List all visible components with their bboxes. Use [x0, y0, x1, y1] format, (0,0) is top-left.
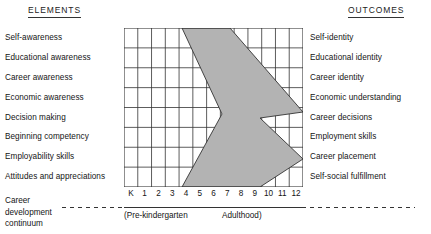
- x-axis-tick: 3: [170, 189, 175, 198]
- element-label: Decision making: [5, 108, 120, 128]
- x-axis-tick: 8: [239, 189, 244, 198]
- element-label: Beginning competency: [5, 127, 120, 147]
- outcome-label: Educational identity: [310, 48, 431, 68]
- x-axis-tick: 7: [225, 189, 230, 198]
- diagram-grid: [124, 28, 303, 187]
- outcome-label: Career placement: [310, 147, 431, 167]
- outcomes-column-header: OUTCOMES: [348, 5, 404, 18]
- x-axis-tick: 1: [142, 189, 147, 198]
- x-axis-tick: 6: [211, 189, 216, 198]
- x-axis-tick: 11: [278, 189, 287, 198]
- elements-column-header: ELEMENTS: [28, 5, 81, 18]
- element-label: Educational awareness: [5, 48, 120, 68]
- outcome-label: Career decisions: [310, 108, 431, 128]
- x-axis-tick: 5: [197, 189, 202, 198]
- x-axis-tick: K: [128, 189, 133, 198]
- outcomes-label-list: Self-identity Educational identity Caree…: [310, 28, 431, 187]
- element-label: Attitudes and appreciations: [5, 167, 120, 187]
- x-axis-tick: 4: [184, 189, 189, 198]
- continuum-caption-line2: development: [5, 207, 52, 219]
- x-axis-tick: 12: [292, 189, 301, 198]
- outcome-label: Self-social fulfillment: [310, 167, 431, 187]
- element-label: Economic awareness: [5, 88, 120, 108]
- x-axis-tick-labels: K123456789101112: [124, 189, 303, 202]
- continuum-caption-line3: continuum: [5, 218, 52, 230]
- career-development-diagram: ELEMENTS OUTCOMES Self-awareness Educati…: [0, 0, 431, 234]
- element-label: Career awareness: [5, 68, 120, 88]
- continuum-caption: Career development continuum: [5, 195, 52, 230]
- x-axis-tick: 9: [253, 189, 258, 198]
- grid-svg: [124, 28, 303, 187]
- outcome-label: Self-identity: [310, 28, 431, 48]
- elements-label-list: Self-awareness Educational awareness Car…: [5, 28, 120, 187]
- element-label: Self-awareness: [5, 28, 120, 48]
- range-start-label: (Pre-kindergarten: [124, 211, 188, 220]
- x-axis-tick: 10: [264, 189, 273, 198]
- outcome-label: Economic understanding: [310, 88, 431, 108]
- outcome-label: Employment skills: [310, 127, 431, 147]
- x-axis-tick: 2: [156, 189, 161, 198]
- element-label: Employability skills: [5, 147, 120, 167]
- continuum-solid-line: [124, 207, 303, 208]
- range-end-label: Adulthood): [222, 211, 262, 220]
- outcome-label: Career identity: [310, 68, 431, 88]
- continuum-caption-line1: Career: [5, 195, 52, 207]
